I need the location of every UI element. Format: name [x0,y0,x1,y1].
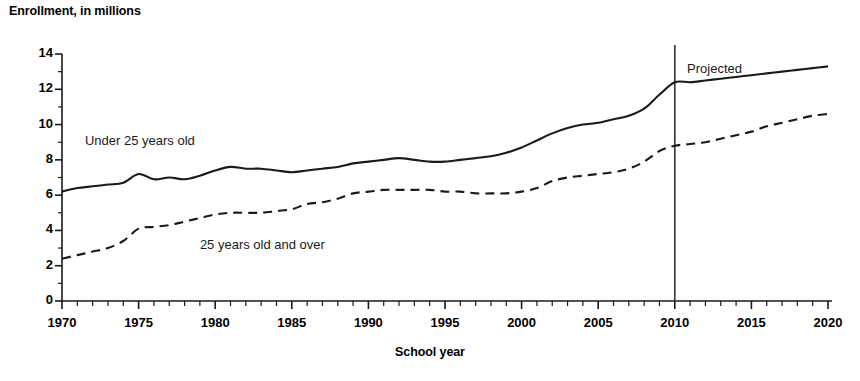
y-tick-label: 8 [19,151,53,166]
y-tick-label: 0 [19,292,53,307]
tick-marks [55,54,828,309]
data-series-group [62,66,828,258]
y-tick-label: 10 [19,116,53,131]
y-tick-label: 12 [19,80,53,95]
series-label-25-years-old-and-over: 25 years old and over [200,237,325,252]
projected-label: Projected [687,61,742,76]
x-tick-label: 2000 [492,315,552,330]
series-label-under-25-years-old: Under 25 years old [85,133,195,148]
y-tick-label: 4 [19,221,53,236]
y-tick-label: 14 [19,45,53,60]
x-tick-label: 2020 [798,315,858,330]
x-tick-label: 1980 [185,315,245,330]
x-tick-label: 2005 [568,315,628,330]
x-tick-label: 1990 [338,315,398,330]
y-tick-label: 2 [19,257,53,272]
x-tick-label: 1970 [32,315,92,330]
x-tick-label: 1995 [415,315,475,330]
x-axis-title: School year [0,345,860,359]
axis-lines [62,54,832,301]
enrollment-line-chart: Enrollment, in millions 02468101214 1970… [0,0,860,381]
x-tick-label: 1985 [262,315,322,330]
y-tick-label: 6 [19,186,53,201]
series-line-1 [62,66,828,191]
x-tick-label: 1975 [109,315,169,330]
x-tick-label: 2015 [721,315,781,330]
x-tick-label: 2010 [645,315,705,330]
